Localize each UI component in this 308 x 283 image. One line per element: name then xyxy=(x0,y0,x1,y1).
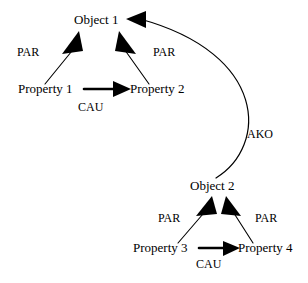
arrow-head-icon xyxy=(62,31,83,54)
edge-label-par-top-left: PAR xyxy=(17,45,39,59)
arrowheads-layer xyxy=(62,11,241,256)
edge-ako-object2-object1 xyxy=(140,19,249,178)
edge-label-cau-top: CAU xyxy=(78,100,104,114)
edge-label-cau-bottom: CAU xyxy=(196,257,222,271)
edge-label-par-bottom-right: PAR xyxy=(255,211,277,225)
node-label-object1: Object 1 xyxy=(74,12,118,27)
arrow-head-icon xyxy=(115,31,136,54)
node-label-property2: Property 2 xyxy=(130,81,185,96)
node-label-property4: Property 4 xyxy=(238,240,293,255)
arrow-head-icon xyxy=(196,196,217,216)
node-label-object2: Object 2 xyxy=(190,178,234,193)
edge-label-par-top-right: PAR xyxy=(153,45,175,59)
arrow-head-icon xyxy=(221,196,241,216)
arrow-head-icon xyxy=(113,81,131,97)
diagram-canvas-container: PARPARCAUAKOPARPARCAU Object 1Property 1… xyxy=(0,0,308,283)
node-label-property1: Property 1 xyxy=(18,81,73,96)
edge-label-ako: AKO xyxy=(247,127,273,141)
edge-label-par-bottom-left: PAR xyxy=(158,211,180,225)
node-label-property3: Property 3 xyxy=(133,240,188,255)
semantic-network-diagram: PARPARCAUAKOPARPARCAU Object 1Property 1… xyxy=(0,0,308,283)
arrow-head-icon xyxy=(126,11,146,28)
edge-labels-layer: PARPARCAUAKOPARPARCAU xyxy=(17,45,277,271)
